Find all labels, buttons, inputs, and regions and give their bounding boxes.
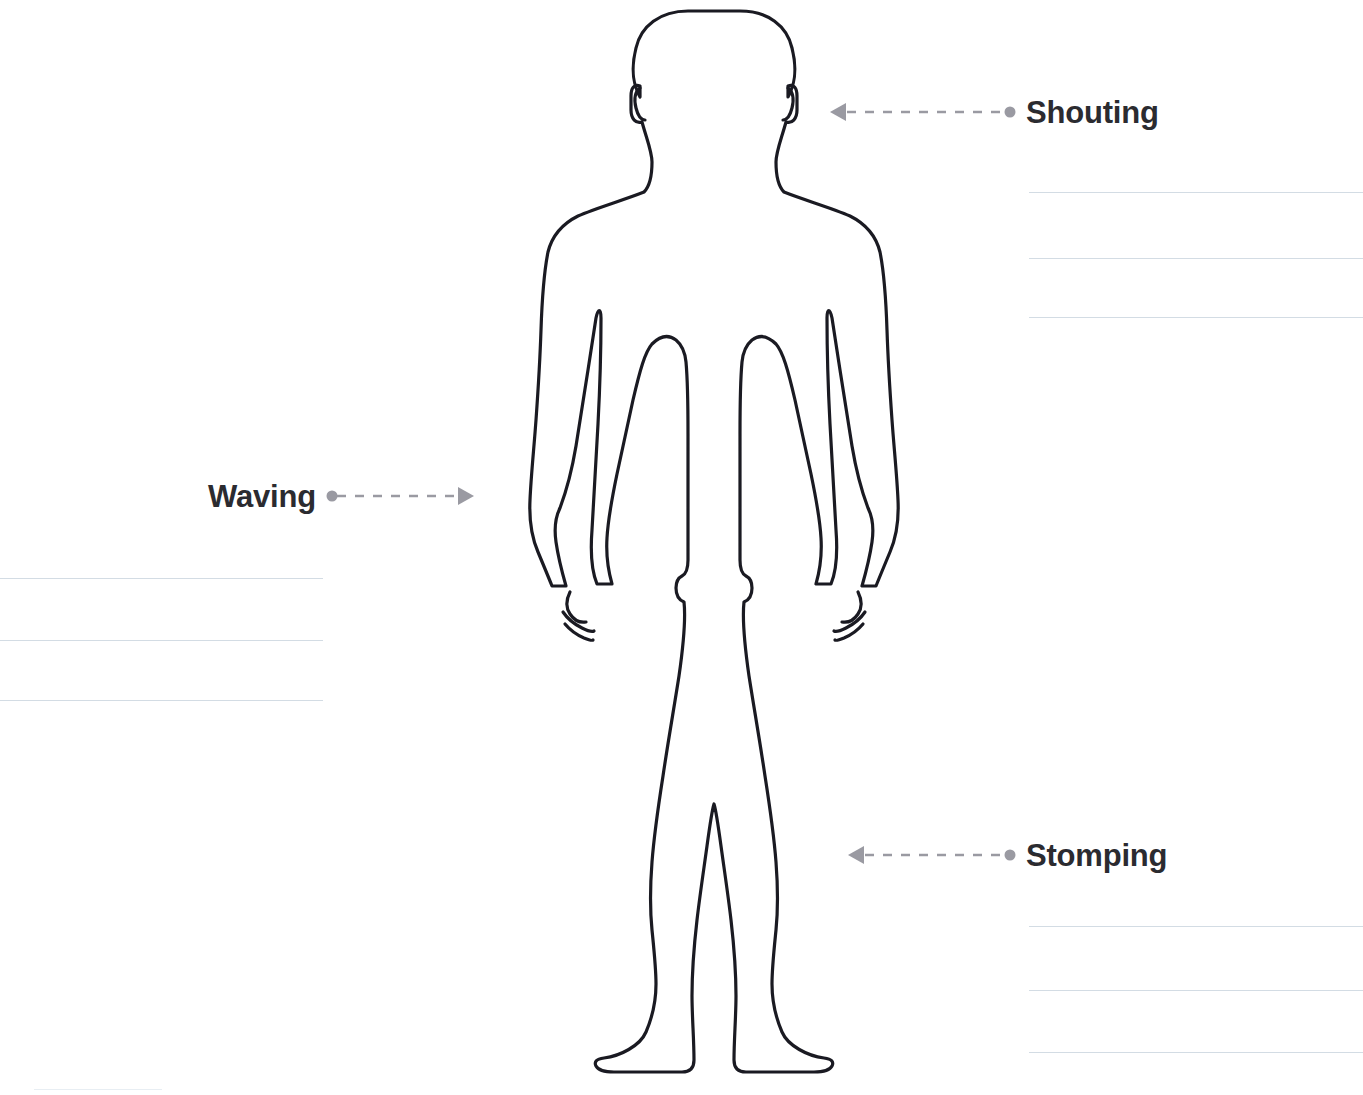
connector-arrow-right-waving xyxy=(326,480,474,512)
waving-lines-2 xyxy=(0,640,323,641)
right-hand-fingers-path xyxy=(842,592,861,622)
callout-waving: Waving xyxy=(208,480,474,512)
anchor-dot-icon xyxy=(1005,107,1016,118)
waving-lines-3 xyxy=(0,700,323,701)
callout-label-shouting: Shouting xyxy=(1026,97,1159,128)
callout-stomping: Stomping xyxy=(848,839,1167,871)
waving-lines-1 xyxy=(0,578,323,579)
shouting-lines-1 xyxy=(1029,192,1363,193)
shouting-lines-3 xyxy=(1029,317,1363,318)
anchor-dot-icon xyxy=(326,491,337,502)
arrowhead-left-icon xyxy=(830,103,846,121)
stomping-lines-2 xyxy=(1029,990,1363,991)
worksheet-canvas: Shouting Waving Stomping xyxy=(0,0,1363,1095)
callout-shouting: Shouting xyxy=(830,96,1159,128)
right-ear-path xyxy=(783,88,793,120)
callout-label-stomping: Stomping xyxy=(1026,840,1167,871)
stomping-lines-3 xyxy=(1029,1052,1363,1053)
arrowhead-left-icon xyxy=(848,846,864,864)
shouting-lines-2 xyxy=(1029,258,1363,259)
connector-arrow-left-stomping xyxy=(848,839,1016,871)
right-hand-crease-2 xyxy=(835,624,863,640)
arrowhead-right-icon xyxy=(458,487,474,505)
body-silhouette-path xyxy=(530,11,898,1072)
left-hand-crease-1 xyxy=(563,612,594,631)
connector-arrow-left-shouting xyxy=(830,96,1016,128)
callout-label-waving: Waving xyxy=(208,481,316,512)
left-ear-path xyxy=(635,88,645,120)
stomping-lines-1 xyxy=(1029,926,1363,927)
human-body-outline xyxy=(0,0,1363,1095)
right-hand-crease-1 xyxy=(834,612,865,631)
left-hand-fingers-path xyxy=(567,592,586,622)
bottom-left-line-1 xyxy=(34,1089,162,1090)
anchor-dot-icon xyxy=(1005,850,1016,861)
left-hand-crease-2 xyxy=(565,624,593,640)
